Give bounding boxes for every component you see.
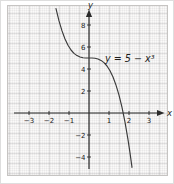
x-tick-label: −3 — [24, 117, 34, 125]
graph-figure: −3−2−11238642−2−4 y = 5 − x³ x y — [0, 0, 174, 184]
curve-group — [56, 9, 132, 168]
plot-svg: −3−2−11238642−2−4 y = 5 − x³ x y — [1, 1, 174, 184]
y-axis-arrow-icon — [86, 10, 92, 18]
axes-group: −3−2−11238642−2−4 — [14, 10, 165, 170]
y-axis-letter: y — [87, 1, 94, 10]
x-tick-label: 2 — [127, 117, 131, 125]
y-tick-label: 6 — [81, 44, 86, 52]
x-tick-label: −2 — [44, 117, 54, 125]
x-axis-arrow-icon — [157, 110, 165, 116]
y-tick-label: −4 — [75, 154, 86, 162]
x-tick-label: 1 — [107, 117, 111, 125]
y-tick-label: 2 — [81, 88, 85, 96]
x-tick-label: −1 — [64, 117, 74, 125]
equation-label: y = 5 − x³ — [104, 53, 155, 64]
x-tick-label: 3 — [147, 117, 151, 125]
y-tick-label: −2 — [75, 132, 85, 140]
y-tick-label: 8 — [81, 22, 85, 30]
y-tick-label: 4 — [81, 66, 86, 74]
function-curve — [56, 9, 132, 168]
x-axis-letter: x — [166, 108, 173, 118]
